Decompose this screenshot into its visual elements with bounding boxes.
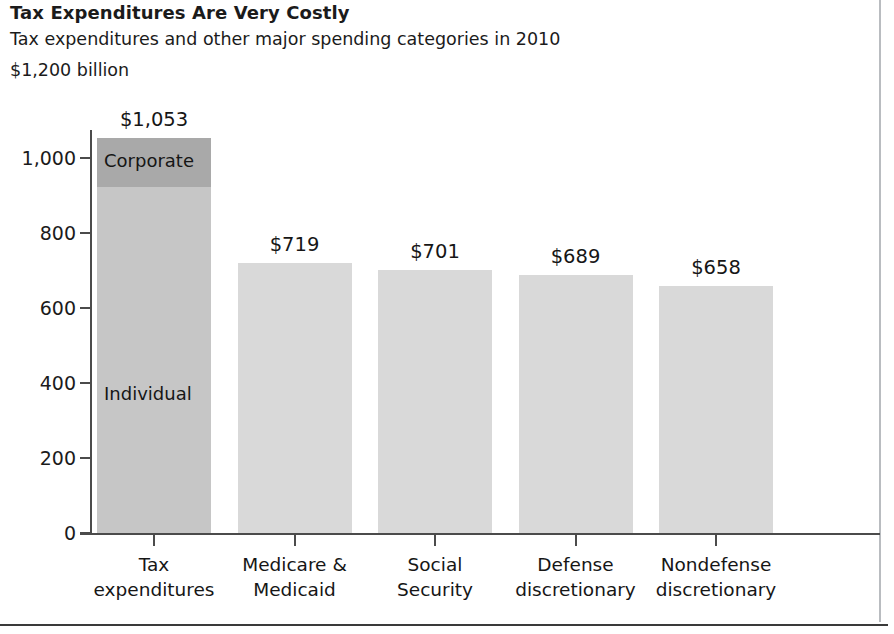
y-axis-tick-label: 600 [0, 297, 76, 319]
bar-fill[interactable] [519, 275, 633, 533]
x-axis-category-label: Nondefensediscretionary [643, 552, 789, 602]
y-axis-line [90, 130, 92, 535]
x-axis-category-label-line: Nondefense [643, 552, 789, 577]
x-axis-line [80, 533, 880, 535]
x-axis-category-label-line: Security [362, 577, 508, 602]
bar-segment-individual[interactable]: Individual [97, 187, 211, 533]
bar-value-label: $719 [238, 233, 352, 256]
x-axis-category-label: Taxexpenditures [81, 552, 227, 602]
plot-area: 02004006008001,000 IndividualCorporate$1… [0, 0, 894, 634]
bar-value-label: $701 [378, 240, 492, 263]
x-axis-category-label-line: Defense [503, 552, 649, 577]
x-axis-category-label-line: Social [362, 552, 508, 577]
bar-fill[interactable] [238, 263, 352, 533]
bar-segment-label-corporate: Corporate [104, 150, 194, 171]
bar[interactable] [378, 270, 492, 533]
x-axis-tick [434, 535, 436, 546]
bar-value-label: $658 [659, 256, 773, 279]
x-axis-category-label-line: discretionary [643, 577, 789, 602]
x-axis-category-label-line: expenditures [81, 577, 227, 602]
y-axis-tick [80, 307, 91, 309]
bar[interactable] [659, 286, 773, 533]
y-axis-tick [80, 532, 91, 534]
chart-figure: Tax Expenditures Are Very Costly Tax exp… [0, 0, 894, 634]
x-axis-category-label: Medicare &Medicaid [222, 552, 368, 602]
x-axis-category-label-line: discretionary [503, 577, 649, 602]
x-axis-tick [575, 535, 577, 546]
x-axis-category-label-line: Medicare & [222, 552, 368, 577]
y-axis-tick [80, 157, 91, 159]
bar[interactable] [238, 263, 352, 533]
bar-segment-label-individual: Individual [104, 383, 192, 404]
x-axis-tick [153, 535, 155, 546]
y-axis-tick-label: 1,000 [0, 147, 76, 169]
y-axis-tick-label: 400 [0, 372, 76, 394]
y-axis-tick-label: 200 [0, 447, 76, 469]
x-axis-category-label-line: Tax [81, 552, 227, 577]
y-axis-tick [80, 382, 91, 384]
y-axis-tick-label: 0 [0, 522, 76, 544]
x-axis-category-label: SocialSecurity [362, 552, 508, 602]
x-axis-category-label-line: Medicaid [222, 577, 368, 602]
bar[interactable] [519, 275, 633, 533]
x-axis-tick [715, 535, 717, 546]
bar-segment-corporate[interactable]: Corporate [97, 138, 211, 187]
x-axis-category-label: Defensediscretionary [503, 552, 649, 602]
bar-fill[interactable] [378, 270, 492, 533]
bar[interactable]: IndividualCorporate [97, 138, 211, 533]
y-axis-tick-label: 800 [0, 222, 76, 244]
y-axis-tick [80, 457, 91, 459]
x-axis-tick [294, 535, 296, 546]
y-axis-tick [80, 232, 91, 234]
bar-value-label: $689 [519, 245, 633, 268]
bar-value-label: $1,053 [97, 108, 211, 131]
bar-fill[interactable] [659, 286, 773, 533]
